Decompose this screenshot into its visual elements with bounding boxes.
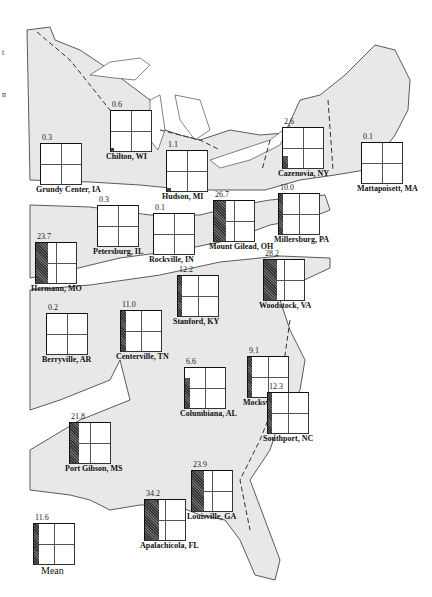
- site-bar: [264, 260, 277, 300]
- site-bar: [214, 201, 226, 241]
- site-label: Stanford, KY: [173, 317, 219, 326]
- site-value: 0.2: [48, 304, 58, 312]
- site-value: 28.2: [265, 250, 279, 258]
- site-chart-box: [35, 242, 77, 284]
- site-value: 0.3: [99, 196, 109, 204]
- site-value: 6.6: [186, 358, 196, 366]
- site-label: Petersburg, IL: [93, 247, 143, 256]
- site-bar: [283, 156, 288, 168]
- site-chart-box: [177, 275, 219, 317]
- site-value: 23.7: [37, 233, 51, 241]
- site-value: 2.6: [284, 118, 294, 126]
- site-label: Louisville, GA: [187, 512, 236, 521]
- site-value: 0.6: [112, 101, 122, 109]
- site-chart-box: [361, 142, 403, 184]
- site-value: 11.6: [35, 514, 49, 522]
- site-chart-box: [33, 523, 75, 565]
- site-label: Port Gibson, MS: [65, 464, 123, 473]
- site-value: 1.1: [168, 141, 178, 149]
- site-bar: [70, 423, 79, 463]
- site-label: Mount Gilead, OH: [209, 242, 273, 251]
- site-label: Hermann, MO: [31, 284, 82, 293]
- site-value: 11.0: [122, 301, 136, 309]
- site-value: 0.3: [42, 134, 52, 142]
- site-label: Columbiana, AL: [180, 409, 237, 418]
- site-bar: [279, 194, 283, 234]
- site-bar: [111, 148, 114, 151]
- site-label: Mean: [41, 565, 64, 576]
- site-value: 34.2: [146, 490, 160, 498]
- site-label: Berryville, AR: [42, 355, 91, 364]
- site-chart-box: [110, 110, 152, 152]
- site-label: Southport, NC: [263, 434, 313, 443]
- site-chart-box: [278, 193, 320, 235]
- site-chart-box: [191, 470, 233, 512]
- site-chart-box: [184, 367, 226, 409]
- site-value: 12.2: [179, 266, 193, 274]
- site-value: 10.0: [280, 184, 294, 192]
- site-value: 21.8: [71, 413, 85, 421]
- site-bar: [36, 243, 48, 283]
- site-chart-box: [120, 310, 162, 352]
- site-label: Centerville, TN: [116, 352, 169, 361]
- site-value: 26.7: [215, 191, 229, 199]
- site-chart-box: [144, 499, 186, 541]
- site-chart-box: [267, 392, 309, 434]
- site-chart-box: [213, 200, 255, 242]
- site-bar: [192, 471, 204, 511]
- site-chart-box: [46, 313, 88, 355]
- site-chart-box: [166, 150, 208, 192]
- site-value: 0.1: [155, 204, 165, 212]
- site-bar: [34, 524, 39, 564]
- site-bar: [185, 378, 190, 408]
- site-label: Rockville, IN: [149, 255, 194, 264]
- site-chart-box: [263, 259, 305, 301]
- site-bar: [121, 311, 126, 351]
- site-label: Hudson, MI: [162, 192, 203, 201]
- site-bar: [167, 188, 171, 191]
- site-chart-box: [40, 143, 82, 185]
- margin-mark: n: [2, 90, 6, 99]
- site-bar: [268, 393, 272, 433]
- site-label: Apalachicola, FL: [140, 541, 199, 550]
- lake-huron: [175, 95, 210, 140]
- site-bar: [178, 276, 182, 316]
- site-chart-box: [153, 213, 195, 255]
- site-value: 9.1: [249, 347, 259, 355]
- site-value: 23.9: [193, 461, 207, 469]
- site-label: Woodstock, VA: [259, 301, 311, 310]
- site-label: Grundy Center, IA: [36, 185, 101, 194]
- site-label: Mattapoisett, MA: [357, 184, 418, 193]
- site-value: 0.1: [363, 133, 373, 141]
- site-label: Chilton, WI: [106, 152, 147, 161]
- site-label: Millersburg, PA: [274, 235, 329, 244]
- site-bar: [145, 500, 159, 540]
- site-chart-box: [97, 205, 139, 247]
- site-chart-box: [69, 422, 111, 464]
- site-value: 12.3: [269, 383, 283, 391]
- margin-mark: t: [2, 48, 4, 57]
- site-chart-box: [282, 127, 324, 169]
- site-bar: [248, 357, 252, 397]
- site-label: Cazenovia, NY: [278, 169, 329, 178]
